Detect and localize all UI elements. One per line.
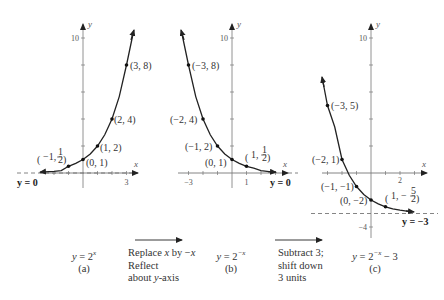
asymptote-label-c: y = −3 xyxy=(402,216,428,227)
graph-a: 10 3 y x y = 0 (0, 1) (1, 2) (2, 4) (3, … xyxy=(17,19,152,188)
point-label-b-1: ( 1, 1 2 ) xyxy=(245,144,270,164)
x-tick-2-c: 2 xyxy=(398,176,402,185)
caption-c: y = 2−x − 3 (c) xyxy=(340,247,410,276)
graph-label-a: (a) xyxy=(56,263,112,276)
equation-c: y = 2−x − 3 xyxy=(340,247,410,263)
point-label-b-m3: (−3, 8) xyxy=(192,60,219,72)
svg-text:): ) xyxy=(267,152,270,164)
y-axis-label-b: y xyxy=(236,19,241,29)
graph-b: 10 −3 1 y x y = 0 (−3, 8) (−2, 4) (−1, 2… xyxy=(170,19,298,188)
y-tick-m4-c: −4 xyxy=(358,223,367,232)
x-tick-1-b: 1 xyxy=(245,178,249,187)
curve-b-right-arrow xyxy=(268,172,276,173)
graph-label-c: (c) xyxy=(340,263,410,276)
y-axis-label-c: y xyxy=(375,19,380,29)
x-tick-m3-b: −3 xyxy=(184,178,193,187)
point-label-a-2: (2, 4) xyxy=(114,114,136,126)
point-label-c-m1: (−1, −1) xyxy=(321,181,354,193)
svg-text:1,: 1, xyxy=(251,149,259,160)
asymptote-label-a: y = 0 xyxy=(17,177,38,188)
curve-c-left-arrow xyxy=(322,77,324,87)
point-label-c-1: ( 1, − 5 2 ) xyxy=(385,185,419,205)
caption-a: y = 2x (a) xyxy=(56,247,112,276)
point-label-a-m1: ( −1, 1 2 ) xyxy=(37,146,66,166)
equation-a: y = 2x xyxy=(56,247,112,263)
point-label-b-m1: (−1, 2) xyxy=(185,141,212,153)
transform-text-2: Subtract 3; shift down 3 units xyxy=(278,247,324,285)
transform-text-1: Replace x by −x Reflect about y-axis xyxy=(128,247,195,285)
y-tick-10-a: 10 xyxy=(71,34,79,43)
equation-b: y = 2−x xyxy=(206,247,256,263)
point-label-c-m3: (−3, 5) xyxy=(331,100,358,112)
svg-text:): ) xyxy=(416,193,419,205)
svg-text:(: ( xyxy=(37,154,41,166)
x-tick-3-a: 3 xyxy=(125,178,129,187)
y-tick-10-b: 10 xyxy=(220,34,228,43)
curve-c-right-arrow xyxy=(406,211,414,212)
asymptote-label-b: y = 0 xyxy=(270,177,291,188)
graph-label-b: (b) xyxy=(206,263,256,276)
x-axis-label-b: x xyxy=(282,159,287,169)
svg-text:(: ( xyxy=(385,193,389,205)
svg-text:(: ( xyxy=(245,152,249,164)
point-label-b-m2: (−2, 4) xyxy=(170,114,197,126)
x-axis-label-c: x xyxy=(421,159,426,169)
y-axis-label-a: y xyxy=(87,19,92,29)
x-axis-label-a: x xyxy=(133,159,138,169)
point-label-a-0: (0, 1) xyxy=(86,157,108,169)
svg-text:−1,: −1, xyxy=(43,151,56,162)
y-tick-10-c: 10 xyxy=(359,34,367,43)
caption-b: y = 2−x (b) xyxy=(206,247,256,276)
point-label-c-m2: (−2, 1) xyxy=(312,154,339,166)
point-label-a-3: (3, 8) xyxy=(130,60,152,72)
svg-text:): ) xyxy=(63,154,66,166)
svg-text:1, −: 1, − xyxy=(391,190,407,201)
point-label-b-0: (0, 1) xyxy=(205,157,227,169)
graph-c: 10 −4 2 y x y = −3 (−3, 5) (−2, 1) (−1, … xyxy=(311,19,438,238)
point-label-c-0: (0, −2) xyxy=(340,195,367,207)
point-label-a-1: (1, 2) xyxy=(100,142,122,154)
